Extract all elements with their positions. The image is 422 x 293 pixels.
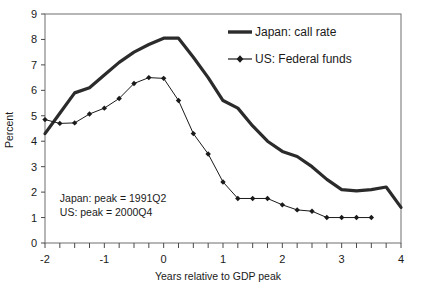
y-tick-label: 6 bbox=[31, 84, 37, 96]
x-axis-ticks bbox=[45, 243, 401, 248]
chart-annotation-text: Japan: peak = 1991Q2 bbox=[60, 192, 167, 204]
x-tick-label: -1 bbox=[99, 253, 109, 265]
y-tick-label: 3 bbox=[31, 161, 37, 173]
x-tick-label: 4 bbox=[398, 253, 404, 265]
y-tick-label: 8 bbox=[31, 33, 37, 45]
y-axis-tick-labels: 0123456789 bbox=[31, 8, 37, 249]
y-tick-label: 5 bbox=[31, 110, 37, 122]
x-tick-label: 3 bbox=[339, 253, 345, 265]
y-tick-label: 2 bbox=[31, 186, 37, 198]
y-axis-ticks bbox=[41, 14, 45, 243]
x-tick-label: -2 bbox=[40, 253, 50, 265]
y-axis-title: Percent bbox=[3, 112, 15, 148]
legend-label-us: US: Federal funds bbox=[255, 52, 352, 66]
y-tick-label: 7 bbox=[31, 59, 37, 71]
y-tick-label: 0 bbox=[31, 237, 37, 249]
chart-annotation-text: US: peak = 2000Q4 bbox=[60, 206, 153, 218]
x-tick-label: 0 bbox=[161, 253, 167, 265]
line-chart: 0123456789 -2-101234 Japan: peak = 1991Q… bbox=[0, 0, 422, 293]
legend-label-japan: Japan: call rate bbox=[255, 25, 337, 39]
y-tick-label: 4 bbox=[31, 135, 37, 147]
chart-figure: 0123456789 -2-101234 Japan: peak = 1991Q… bbox=[0, 0, 422, 293]
x-axis-tick-labels: -2-101234 bbox=[40, 253, 404, 265]
y-tick-label: 1 bbox=[31, 212, 37, 224]
x-tick-label: 2 bbox=[279, 253, 285, 265]
x-axis-title: Years relative to GDP peak bbox=[155, 270, 282, 282]
y-tick-label: 9 bbox=[31, 8, 37, 20]
x-tick-label: 1 bbox=[220, 253, 226, 265]
